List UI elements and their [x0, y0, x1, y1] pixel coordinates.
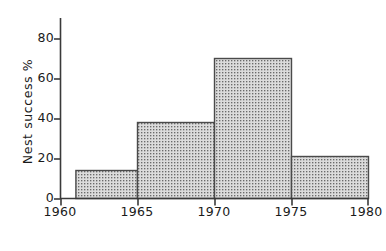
y-axis-ticks — [54, 39, 61, 199]
x-axis-ticks — [61, 199, 368, 206]
histogram-bar — [215, 59, 292, 199]
histogram-bar — [292, 157, 369, 199]
bar-series — [76, 59, 369, 199]
histogram-bar — [138, 123, 215, 199]
histogram-bar — [76, 171, 138, 199]
histogram-figure: Nest success % 0 20 40 60 80 1960 1965 1… — [0, 0, 386, 251]
plot-area — [0, 0, 386, 251]
